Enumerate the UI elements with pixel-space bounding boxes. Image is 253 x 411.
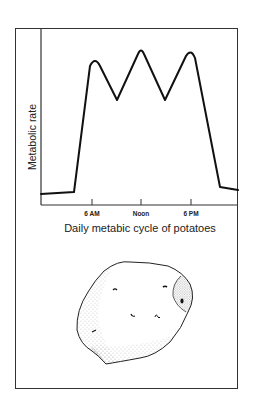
potato-eye (180, 299, 183, 304)
x-tick-label-6pm: 6 PM (183, 210, 198, 217)
chart-svg (0, 0, 253, 411)
metabolic-rate-curve (41, 51, 238, 195)
x-tick-label-noon: Noon (133, 210, 150, 217)
x-axis-label: Daily metabic cycle of potatoes (64, 222, 216, 234)
potato-drawing (70, 262, 200, 370)
y-axis-label: Metabolic rate (26, 104, 38, 170)
potato-eye (163, 286, 167, 287)
x-tick-label-6am: 6 AM (84, 210, 99, 217)
